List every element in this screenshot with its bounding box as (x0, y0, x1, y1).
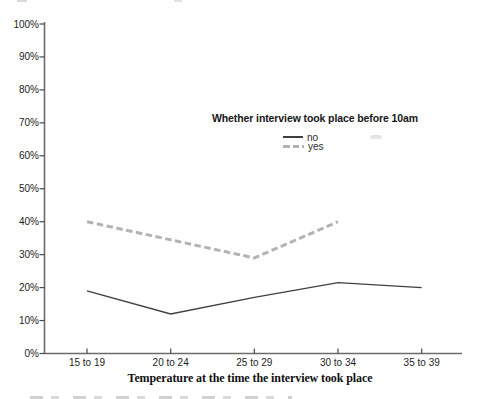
y-tick-label: 30% (4, 249, 39, 260)
x-tick-label: 30 to 34 (298, 357, 378, 368)
plot-area (0, 0, 481, 399)
x-tick-label: 35 to 39 (382, 357, 462, 368)
y-tick-label: 50% (4, 183, 39, 194)
y-tick-label: 80% (4, 84, 39, 95)
legend-swatch-solid-line-icon (283, 136, 303, 137)
y-tick-label: 0% (4, 348, 39, 359)
y-tick-label: 100% (4, 19, 39, 30)
y-tick-label: 10% (4, 315, 39, 326)
y-tick-label: 70% (4, 117, 39, 128)
series-line-yes (87, 222, 338, 258)
series-line-no (87, 283, 422, 314)
y-tick-label: 20% (4, 282, 39, 293)
x-tick-label: 15 to 19 (47, 357, 127, 368)
y-tick-label: 40% (4, 216, 39, 227)
legend-swatch-dashed-line-icon (283, 145, 304, 148)
x-tick-label: 20 to 24 (131, 357, 211, 368)
legend-title: Whether interview took place before 10am (205, 112, 425, 124)
legend-label-yes: yes (308, 141, 324, 152)
x-axis-title: Temperature at the time the interview to… (45, 371, 455, 386)
y-tick-label: 90% (4, 51, 39, 62)
legend-entry-yes: yes (283, 141, 324, 152)
chart-canvas: 0%10%20%30%40%50%60%70%80%90%100% 15 to … (0, 0, 481, 399)
y-tick-label: 60% (4, 150, 39, 161)
x-tick-label: 25 to 29 (214, 357, 294, 368)
